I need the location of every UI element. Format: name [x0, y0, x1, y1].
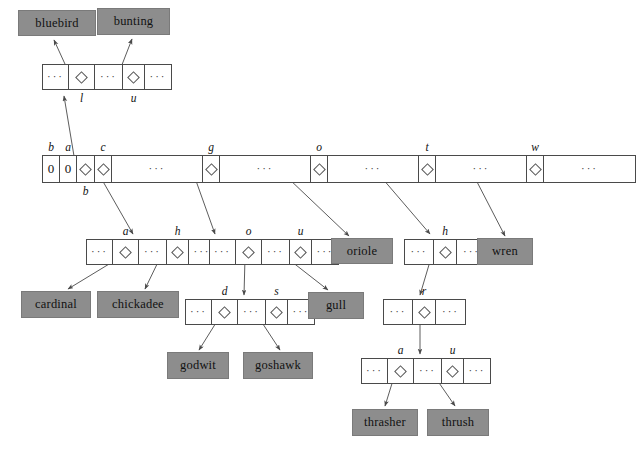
pointer-diamond-icon: [418, 306, 431, 319]
cell-index-label-a: a: [398, 344, 404, 356]
trie-cell-pointer: w: [527, 156, 544, 182]
trie-cell-pointer: a: [388, 359, 414, 383]
pointer-diamond-icon: [421, 163, 434, 176]
ellipsis-glyph: ···: [366, 364, 383, 376]
cell-index-label-d: d: [222, 285, 228, 297]
pointer-diamond-icon: [313, 163, 326, 176]
leaf-box-godwit: godwit: [167, 352, 229, 379]
pointer-diamond-icon: [270, 306, 283, 319]
ellipsis-glyph: ···: [214, 245, 231, 257]
cell-index-label-l: l: [80, 92, 83, 104]
pointer-diamond-icon: [127, 71, 140, 84]
ellipsis-glyph: ···: [267, 245, 284, 257]
ellipsis-glyph: ···: [150, 70, 167, 82]
trie-cell-dots: ···: [362, 359, 388, 383]
leaf-box-gull: gull: [308, 292, 364, 319]
trie-cell-zero: 0b: [43, 156, 60, 182]
trie-cell-pointer: o: [236, 240, 262, 264]
leaf-label: godwit: [180, 359, 216, 372]
trie-cell-dots: ···: [544, 156, 635, 182]
leaf-label: oriole: [347, 245, 377, 258]
leaf-label: chickadee: [112, 298, 164, 311]
pointer-diamond-icon: [218, 306, 231, 319]
cell-index-label-s: s: [274, 285, 278, 297]
edge-w-to-wren: [475, 178, 505, 236]
trie-cell-pointer: t: [419, 156, 436, 182]
leaf-label: wren: [492, 245, 518, 258]
leaf-box-goshawk: goshawk: [243, 352, 313, 379]
trie-cell-dots: ···: [436, 300, 465, 324]
cell-index-label-t: t: [425, 141, 428, 153]
cell-index-label-a: a: [65, 141, 71, 153]
trie-cell-pointer: g: [203, 156, 220, 182]
ellipsis-glyph: ···: [442, 305, 459, 317]
leaf-box-chickadee: chickadee: [97, 291, 179, 318]
pointer-diamond-icon: [79, 163, 92, 176]
pointer-diamond-icon: [97, 163, 110, 176]
trie-node-node-c: ···a···h···: [86, 239, 216, 265]
leaf-box-wren: wren: [477, 238, 533, 265]
ellipsis-glyph: ···: [390, 305, 407, 317]
ellipsis-glyph: ···: [243, 305, 260, 317]
trie-cell-dots: ···: [238, 300, 266, 324]
cell-index-label-b: b: [48, 141, 54, 153]
edge-t-to-node: [382, 178, 430, 234]
ellipsis-glyph: ···: [149, 162, 166, 174]
ellipsis-glyph: ···: [419, 364, 436, 376]
trie-cell-pointer: o: [311, 156, 328, 182]
trie-cell-pointer: d: [212, 300, 238, 324]
trie-cell-dots: ···: [328, 156, 419, 182]
trie-node-node-t: ···h···: [404, 239, 487, 265]
trie-cell-pointer: a: [113, 240, 139, 264]
cell-index-label-o: o: [246, 225, 252, 237]
trie-cell-dots: ···: [220, 156, 311, 182]
leaf-box-bluebird: bluebird: [18, 10, 96, 36]
trie-cell-dots: ···: [145, 65, 171, 89]
pointer-diamond-icon: [242, 246, 255, 259]
trie-node-node-go: ···d···s···: [185, 299, 315, 325]
leaf-box-thrasher: thrasher: [352, 409, 418, 436]
leaf-box-oriole: oriole: [331, 238, 393, 264]
trie-cell-dots: ···: [436, 156, 527, 182]
cell-index-label-u: u: [450, 344, 456, 356]
cell-index-label-b: b: [83, 185, 89, 197]
trie-node-node-thr: ···a···u···: [361, 358, 491, 384]
trie-cell-pointer: b: [77, 156, 95, 182]
leaf-label: cardinal: [35, 298, 77, 311]
leaf-box-bunting: bunting: [97, 8, 170, 35]
trie-cell-dots: ···: [414, 359, 442, 383]
ellipsis-glyph: ···: [365, 162, 382, 174]
ellipsis-glyph: ···: [194, 245, 211, 257]
trie-cell-pointer: u: [442, 359, 464, 383]
trie-cell-dots: ···: [384, 300, 413, 324]
ellipsis-glyph: ···: [581, 162, 598, 174]
trie-cell-pointer: s: [266, 300, 288, 324]
ellipsis-glyph: ···: [91, 245, 108, 257]
pointer-diamond-icon: [394, 365, 407, 378]
cell-index-label-o: o: [316, 141, 322, 153]
ellipsis-glyph: ···: [100, 70, 117, 82]
trie-cell-pointer: l: [69, 65, 95, 89]
trie-cell-pointer: r: [413, 300, 436, 324]
leaf-label: bluebird: [35, 17, 78, 30]
null-value: 0: [65, 161, 72, 177]
trie-node-node-b: ···l···u···: [42, 64, 172, 90]
trie-cell-dots: ···: [139, 240, 167, 264]
cell-index-label-h: h: [175, 225, 181, 237]
ellipsis-glyph: ···: [190, 305, 207, 317]
trie-cell-dots: ···: [95, 65, 123, 89]
trie-cell-pointer: c: [95, 156, 112, 182]
leaf-box-cardinal: cardinal: [21, 291, 91, 318]
cell-index-label-r: r: [422, 285, 426, 297]
trie-node-node-g: ···o···u···: [209, 239, 339, 265]
trie-cell-dots: ···: [112, 156, 203, 182]
cell-index-label-u: u: [131, 92, 137, 104]
pointer-diamond-icon: [529, 163, 542, 176]
ellipsis-glyph: ···: [47, 70, 64, 82]
cell-index-label-c: c: [100, 141, 105, 153]
cell-index-label-a: a: [123, 225, 129, 237]
pointer-diamond-icon: [119, 246, 132, 259]
trie-cell-dots: ···: [405, 240, 434, 264]
ellipsis-glyph: ···: [144, 245, 161, 257]
